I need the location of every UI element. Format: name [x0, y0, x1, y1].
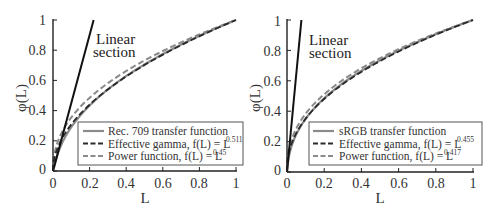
- legend: Rec. 709 transfer function Effective gam…: [78, 122, 243, 165]
- ytick-1: 1: [39, 13, 46, 28]
- ytick-0.4: 0.4: [29, 103, 47, 118]
- ytick-0.2: 0.2: [29, 133, 47, 148]
- xtick-0.2: 0.2: [81, 176, 99, 191]
- legend-item-power-function: Power function, f(L) = L: [339, 150, 453, 163]
- figure: 1 0.8 0.6 0.4 0.2 0 0 0.2 0.4 0.6 0.8 1 …: [0, 0, 491, 208]
- left-chart: 1 0.8 0.6 0.4 0.2 0 0 0.2 0.4 0.6 0.8 1 …: [13, 13, 243, 206]
- x-axis-label: L: [140, 190, 149, 206]
- xtick-0.6: 0.6: [390, 176, 408, 191]
- linear-section-annotation-line2: section: [93, 44, 136, 60]
- legend-exponent-power-function: 0.45: [213, 148, 226, 157]
- legend-item-effective-gamma: Effective gamma, f(L) = L: [108, 138, 230, 151]
- xtick-0.4: 0.4: [117, 176, 135, 191]
- x-axis-label: L: [375, 190, 384, 206]
- ytick-0.4: 0.4: [264, 104, 282, 119]
- ytick-1: 1: [274, 14, 281, 29]
- ytick-0.2: 0.2: [264, 134, 282, 149]
- xtick-1: 1: [233, 176, 240, 191]
- xtick-0.2: 0.2: [315, 176, 333, 191]
- legend-exponent-effective-gamma: 0.455: [457, 135, 474, 144]
- linear-section-annotation-line2: section: [309, 45, 352, 61]
- y-axis-label: φ(L): [247, 84, 264, 112]
- linear-section-line: [287, 20, 301, 172]
- xtick-0.4: 0.4: [352, 176, 370, 191]
- legend-exponent-power-function: 0.417: [444, 148, 461, 157]
- legend-exponent-effective-gamma: 0.511: [226, 135, 243, 144]
- xtick-0: 0: [284, 176, 291, 191]
- ytick-0: 0: [39, 162, 46, 177]
- xtick-0: 0: [50, 176, 57, 191]
- ytick-0.8: 0.8: [264, 44, 282, 59]
- legend-item-power-function: Power function, f(L) = L: [108, 150, 222, 163]
- ytick-0.6: 0.6: [264, 74, 282, 89]
- xtick-0.6: 0.6: [154, 176, 172, 191]
- xtick-0.8: 0.8: [427, 176, 445, 191]
- ytick-0: 0: [274, 163, 281, 178]
- legend-item-rec709: Rec. 709 transfer function: [108, 125, 228, 137]
- ytick-0.8: 0.8: [29, 43, 47, 58]
- right-chart: 1 0.8 0.6 0.4 0.2 0 0 0.2 0.4 0.6 0.8 1 …: [247, 14, 482, 206]
- legend: sRGB transfer function Effective gamma, …: [309, 122, 482, 165]
- xtick-0.8: 0.8: [190, 176, 208, 191]
- legend-item-effective-gamma: Effective gamma, f(L) = L: [339, 138, 461, 151]
- y-axis-label: φ(L): [13, 84, 30, 112]
- legend-item-srgb: sRGB transfer function: [339, 125, 447, 137]
- xtick-1: 1: [470, 176, 477, 191]
- ytick-0.6: 0.6: [29, 73, 47, 88]
